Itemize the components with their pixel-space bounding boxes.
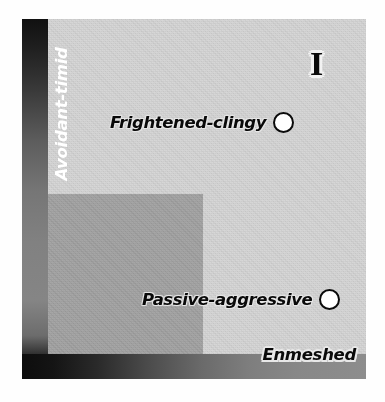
open-circle-marker-icon — [273, 112, 294, 133]
data-point-frightened-clingy: Frightened-clingy — [110, 112, 294, 133]
data-point-label: Frightened-clingy — [110, 113, 266, 132]
inner-shaded-quadrant-block — [22, 194, 203, 379]
vertical-axis-label: Avoidant-timid — [51, 45, 73, 183]
vertical-axis-gradient-bar — [22, 19, 48, 379]
quadrant-diagram-figure: Avoidant-timid Enmeshed I Frightened-cli… — [0, 0, 385, 402]
horizontal-axis-label: Enmeshed — [262, 345, 356, 364]
open-circle-marker-icon — [319, 289, 340, 310]
quadrant-numeral-label: I — [310, 47, 323, 81]
data-point-label: Passive-aggressive — [142, 290, 312, 309]
data-point-passive-aggressive: Passive-aggressive — [142, 289, 340, 310]
plot-area: Avoidant-timid Enmeshed I Frightened-cli… — [22, 19, 366, 379]
